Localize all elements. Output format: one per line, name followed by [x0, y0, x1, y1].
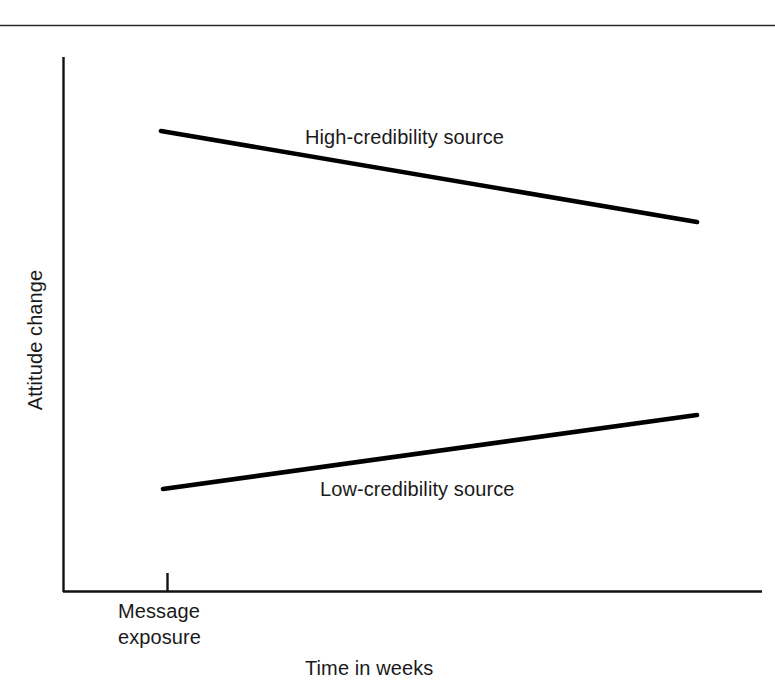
series-label-high-credibility: High-credibility source — [305, 124, 504, 150]
x-axis-title: Time in weeks — [305, 655, 515, 681]
figure-canvas: Attitude change High-credibility source … — [0, 0, 775, 696]
y-axis-title: Attitude change — [0, 250, 70, 430]
right-arrow-icon — [443, 660, 515, 676]
x-axis-origin-annotation: Message exposure — [118, 598, 201, 651]
origin-annotation-line-2: exposure — [118, 624, 201, 650]
y-axis-title-text: Attitude change — [22, 270, 48, 411]
series-label-low-credibility: Low-credibility source — [320, 476, 515, 502]
chart-svg — [0, 0, 775, 696]
origin-annotation-line-1: Message — [118, 598, 201, 624]
